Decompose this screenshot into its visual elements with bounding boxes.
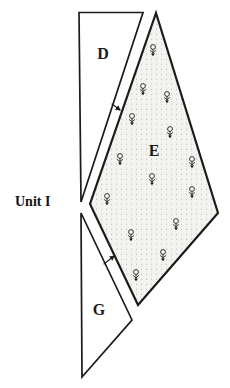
younging-arrow-2 xyxy=(104,256,114,264)
diagram-canvas: DEG Unit I xyxy=(0,0,230,388)
unit-label: Unit I xyxy=(15,194,50,209)
figure: DEG Unit I xyxy=(0,0,230,388)
region-E-label: E xyxy=(149,142,160,159)
map-regions xyxy=(79,13,218,378)
younging-arrow-1 xyxy=(112,104,120,110)
region-G-label: G xyxy=(93,301,106,318)
region-D-label: D xyxy=(97,45,109,62)
